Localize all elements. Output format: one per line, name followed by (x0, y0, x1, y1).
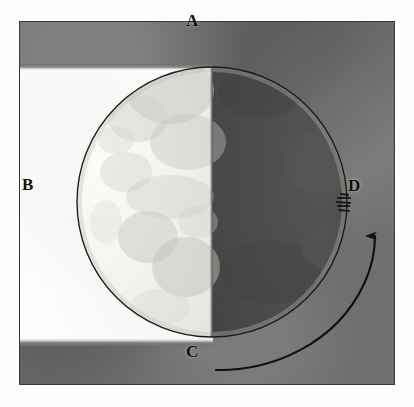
figure-graphics (20, 22, 394, 384)
label-d: D (348, 177, 360, 194)
label-a: A (186, 12, 198, 29)
illustration-plate (20, 22, 394, 384)
figure-page: A B C D (0, 0, 414, 407)
moon-terminator (211, 22, 214, 384)
label-b: B (22, 176, 33, 193)
label-c: C (186, 343, 198, 360)
